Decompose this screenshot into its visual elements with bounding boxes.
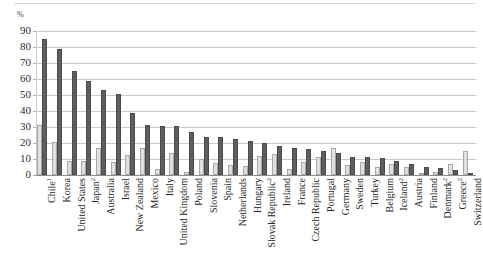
bar-dark: [336, 153, 341, 175]
bar-dark: [218, 137, 223, 175]
x-axis-tick-label: United States: [77, 178, 87, 232]
bar-dark: [350, 157, 355, 175]
x-axis-tick-label: Netherlands: [238, 178, 248, 226]
bar-dark: [453, 170, 458, 175]
bar-dark: [468, 173, 473, 175]
y-axis-tick-label: 80: [3, 41, 31, 52]
bar-group: [111, 31, 124, 175]
x-axis-tick-label: France: [297, 178, 307, 205]
bar-dark: [174, 126, 179, 175]
y-axis-tick-label: 30: [3, 121, 31, 132]
bar-group: [404, 31, 417, 175]
x-axis-line: [36, 175, 476, 176]
y-axis-tick-label: 20: [3, 137, 31, 148]
bar-group: [419, 31, 432, 175]
bar-group: [155, 31, 168, 175]
bar-dark: [262, 143, 267, 175]
bar-group: [316, 31, 329, 175]
y-axis-tick-label: 40: [3, 105, 31, 116]
bar-group: [463, 31, 476, 175]
x-axis-tick-label: Chile1: [47, 178, 57, 203]
x-axis-labels: Chile1KoreaUnited StatesJapan2AustraliaI…: [36, 178, 476, 274]
bar-group: [81, 31, 94, 175]
bar-group: [67, 31, 80, 175]
bar-group: [257, 31, 270, 175]
x-axis-tick-label: Slovak Republic2: [267, 178, 277, 248]
bar-dark: [321, 151, 326, 175]
bar-dark: [189, 132, 194, 175]
bar-dark: [248, 141, 253, 175]
bar-dark: [101, 90, 106, 175]
bar-group: [345, 31, 358, 175]
bar-dark: [424, 167, 429, 175]
x-axis-tick-label: Sweden: [355, 178, 365, 210]
bar-group: [433, 31, 446, 175]
bar-dark: [42, 39, 47, 175]
bar-dark: [160, 126, 165, 175]
x-axis-tick-label: Ireland: [282, 178, 292, 206]
bar-group: [287, 31, 300, 175]
x-axis-tick-label: Denmark2: [443, 178, 453, 218]
bar-dark: [277, 146, 282, 175]
bar-group: [228, 31, 241, 175]
y-axis-tick-label: 10: [3, 153, 31, 164]
x-axis-tick-label: Australia: [106, 178, 116, 215]
bar-dark: [116, 94, 121, 175]
bar-dark: [394, 161, 399, 175]
x-axis-tick-label: Italy: [165, 178, 175, 196]
x-axis-tick-label: New Zealand: [135, 178, 145, 232]
x-axis-tick-label: Israel: [121, 178, 131, 200]
bar-group: [52, 31, 65, 175]
bar-group: [448, 31, 461, 175]
bar-dark: [86, 81, 91, 175]
bar-group: [199, 31, 212, 175]
bar-dark: [365, 157, 370, 175]
bar-dark: [438, 168, 443, 175]
x-axis-tick-label: Korea: [62, 178, 72, 202]
bar-dark: [204, 137, 209, 175]
y-axis-tick-label: 90: [3, 25, 31, 36]
x-axis-tick-label: Switzerland: [473, 178, 483, 226]
bar-group: [140, 31, 153, 175]
plot-area: [36, 31, 476, 175]
x-axis-tick-label: Belgium: [385, 178, 395, 212]
y-axis-tick-label: 70: [3, 57, 31, 68]
x-axis-tick-label: Mexico: [150, 178, 160, 209]
bar-dark: [145, 125, 150, 175]
chart-figure: % 0102030405060708090 Chile1KoreaUnited …: [0, 0, 483, 276]
bar-dark: [57, 49, 62, 175]
x-axis-tick-label: Turkey: [370, 178, 380, 207]
y-axis: 0102030405060708090: [0, 0, 36, 190]
x-axis-tick-label: Finland: [429, 178, 439, 209]
x-axis-tick-label: Japan2: [91, 178, 101, 204]
bar-dark: [72, 71, 77, 175]
bar-group: [272, 31, 285, 175]
bar-group: [301, 31, 314, 175]
bar-group: [360, 31, 373, 175]
x-axis-tick-label: United Kingdom: [179, 178, 189, 246]
bar-dark: [233, 139, 238, 175]
bar-group: [375, 31, 388, 175]
bar-group: [213, 31, 226, 175]
bar-light: [463, 151, 468, 175]
bar-dark: [380, 158, 385, 175]
bar-group: [125, 31, 138, 175]
bar-group: [389, 31, 402, 175]
bar-group: [37, 31, 50, 175]
bar-group: [184, 31, 197, 175]
x-axis-tick-label: Germany: [341, 178, 351, 215]
x-axis-tick-label: Poland: [194, 178, 204, 206]
bar-dark: [130, 113, 135, 175]
x-axis-tick-label: Greece2: [458, 178, 468, 210]
x-axis-tick-label: Hungary: [253, 178, 263, 213]
x-axis-tick-label: Spain: [223, 178, 233, 201]
x-axis-tick-label: Portugal: [326, 178, 336, 212]
page-top-rule: [14, 3, 476, 4]
bar-group: [169, 31, 182, 175]
x-axis-tick-label: Slovenia: [209, 178, 219, 213]
bar-group: [243, 31, 256, 175]
bar-group: [331, 31, 344, 175]
bar-dark: [292, 148, 297, 175]
bar-dark: [306, 149, 311, 175]
bar-group: [96, 31, 109, 175]
